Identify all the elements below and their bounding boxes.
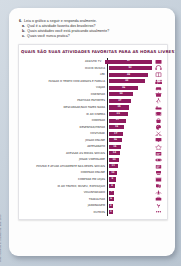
bar-category-label: OUTROS [19, 211, 108, 214]
bar-value-label: 52 [129, 67, 132, 69]
bar-value-label: 11 [112, 165, 115, 167]
bar: 52 [109, 66, 152, 70]
bar-track: 11 [108, 164, 153, 168]
bar-track: 7 [108, 191, 153, 195]
bar: 27 [109, 99, 131, 103]
chart-card: QUAIS SÃO SUAS ATIVIDADES FAVORITAS PARA… [18, 44, 168, 219]
bar-value-label: 36 [122, 87, 125, 89]
chart-plot-area: ASSISTIR TV57OUVIR MÚSICA52LER48PASSAR O… [19, 58, 167, 215]
bar-category-label: PRATICAR ESPORTES [19, 99, 108, 102]
bar-track: 21 [108, 119, 153, 123]
bar: 25 [109, 105, 130, 109]
bar-track: 16 [108, 138, 153, 142]
bar-track: 8 [108, 184, 153, 188]
bar: 57 [105, 60, 152, 64]
bar-value-label: 7 [111, 191, 113, 193]
bar-value-label: 4 [110, 205, 112, 207]
bar-category-label: COMPRAR [19, 119, 108, 122]
bar-track: 30 [108, 92, 153, 96]
bar: 3 [109, 210, 113, 214]
question-text: Quais você nunca pratica? [27, 34, 70, 39]
bar-value-label: 3 [110, 211, 112, 213]
bar-value-label: 15 [113, 146, 116, 148]
bar-category-label: ASSISTIR TV [19, 60, 104, 63]
bar: 16 [109, 138, 122, 142]
social-media-icon [152, 151, 164, 157]
bar: 13 [109, 158, 120, 162]
chart-title: QUAIS SÃO SUAS ATIVIDADES FAVORITAS PARA… [19, 45, 167, 58]
bar: 36 [109, 86, 139, 90]
bar-value-label: 14 [113, 152, 116, 154]
post-icon [152, 164, 164, 170]
plant-icon [152, 203, 164, 209]
bar: 14 [109, 151, 121, 155]
question-block: 6.Leia o gráfico a seguir e responda ora… [19, 19, 168, 39]
bar: 9 [109, 177, 116, 181]
bar-value-label: 17 [114, 133, 117, 135]
photo-credit: Foto: ACERVO E. Santos/Arq. Edit. 2013 [0, 215, 2, 262]
bar-track: 25 [108, 105, 153, 109]
bar: 19 [109, 125, 125, 129]
bar-value-label: 23 [117, 113, 120, 115]
people-icon [152, 79, 164, 85]
bar-track: 44 [108, 79, 153, 83]
tv-icon [152, 59, 164, 65]
palette-icon [152, 124, 164, 130]
bar-track: 15 [108, 145, 153, 149]
bar-category-label: POSTAR E ATUAR ATIVAMENTE NAS REDES SOCI… [19, 165, 108, 168]
bar-category-label: LER [19, 73, 108, 76]
bar: 4 [109, 204, 113, 208]
bar-value-label: 13 [112, 159, 115, 161]
bar-track: 17 [108, 132, 153, 136]
theater-masks-icon [152, 183, 164, 189]
volunteer-icon [152, 190, 164, 196]
bar-category-label: IR AO TEATRO, MUSEU, EXPOSIÇÃO [19, 185, 108, 188]
bar-value-label: 48 [127, 74, 130, 76]
bar-category-label: ARTESANATO [19, 145, 108, 148]
bar-value-label: 10 [111, 172, 114, 174]
bar-track: 6 [108, 197, 153, 201]
gamepad-icon [152, 157, 164, 163]
scissors-icon [152, 131, 164, 137]
bar: 8 [109, 184, 116, 188]
bar-track: 36 [108, 86, 153, 90]
bar-track: 48 [108, 73, 153, 77]
bar-value-label: 19 [115, 126, 118, 128]
store-icon [152, 177, 164, 183]
bar: 21 [109, 119, 126, 123]
bar-category-label: TRABALHAR [19, 198, 108, 201]
bar-category-label: JOGAR VIDEOGAME [19, 158, 108, 161]
bar-value-label: 21 [116, 119, 119, 121]
bar: 17 [109, 132, 123, 136]
bar-track: 23 [108, 112, 153, 116]
bar-category-label: ACESSAR AS MÍDIAS SOCIAIS [19, 152, 108, 155]
bar-category-label: OUVIR MÚSICA [19, 67, 108, 70]
chart-bar-row: OUTROS3 [19, 209, 164, 216]
bar: 23 [109, 112, 128, 116]
bar-track: 3 [108, 210, 153, 214]
question-line-3: c.Quais você nunca pratica? [19, 34, 168, 39]
bed-icon [152, 105, 164, 111]
bar-value-label: 25 [117, 106, 120, 108]
bar-value-label: 8 [111, 185, 113, 187]
bar-category-label: PASSAR O TEMPO COM AMIGOS E FAMÍLIA [19, 80, 108, 83]
bar-track: 52 [108, 66, 153, 70]
cooking-pot-icon [152, 92, 164, 98]
bar-value-label: 44 [125, 80, 128, 82]
bar: 15 [109, 145, 121, 149]
shopping-bag-icon [152, 118, 164, 124]
bar: 48 [109, 73, 149, 77]
online-cart-icon [152, 170, 164, 176]
bar: 11 [109, 164, 118, 168]
bar-track: 10 [108, 171, 153, 175]
bar-category-label: VOLUNTARIADO [19, 191, 108, 194]
worksheet-page: 6.Leia o gráfico a seguir e responda ora… [9, 8, 175, 256]
monitor-icon [152, 137, 164, 143]
bar-value-label: 9 [112, 178, 114, 180]
bar-value-label: 6 [110, 198, 112, 200]
book-icon [152, 72, 164, 78]
bar-category-label: COSTURAR [19, 132, 108, 135]
bar-category-label: COMPRAR EM LOJAS [19, 178, 108, 181]
bar-value-label: 27 [118, 100, 121, 102]
bar-category-label: DESENHAR/PINTAR [19, 126, 108, 129]
